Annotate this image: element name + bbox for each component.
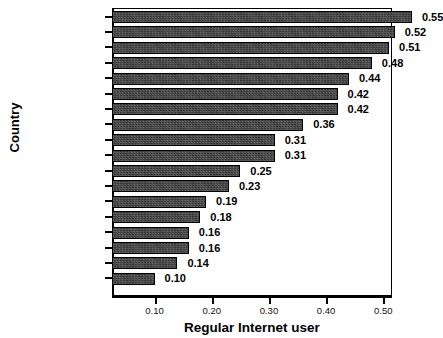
bar-value-label: 0.19 [216, 194, 237, 208]
bar-value-label: 0.42 [348, 87, 369, 101]
bar-value-label: 0.18 [210, 210, 231, 224]
y-axis-tick [105, 46, 112, 48]
bar [112, 42, 389, 54]
y-axis-tick [105, 123, 112, 125]
y-axis-tick [105, 247, 112, 249]
bar-value-label: 0.44 [359, 71, 380, 85]
bar [112, 88, 338, 100]
y-axis-tick [105, 77, 112, 79]
y-axis-tick [105, 170, 112, 172]
x-axis-tick-label: 0.20 [192, 305, 232, 316]
x-axis-tick [212, 298, 214, 304]
bar [112, 103, 338, 115]
bar-value-label: 0.51 [399, 40, 420, 54]
bar [112, 119, 303, 131]
bar-value-label: 0.48 [382, 56, 403, 70]
bar-value-label: 0.55 [422, 10, 443, 24]
y-axis-tick [105, 139, 112, 141]
bar [112, 227, 189, 239]
x-axis-tick-label: 0.30 [249, 305, 289, 316]
y-axis-tick [105, 200, 112, 202]
bar-value-label: 0.16 [199, 241, 220, 255]
y-axis-tick [105, 231, 112, 233]
y-axis-tick [105, 277, 112, 279]
x-axis-tick-label: 0.40 [306, 305, 346, 316]
bar [112, 11, 412, 23]
y-axis-tick [105, 31, 112, 33]
bar-value-label: 0.36 [313, 117, 334, 131]
x-axis-tick-label: 0.50 [363, 305, 403, 316]
bar-value-label: 0.14 [187, 256, 208, 270]
x-axis-tick [326, 298, 328, 304]
x-axis-title: Regular Internet user [112, 320, 392, 335]
y-axis-tick [105, 262, 112, 264]
bar [112, 211, 200, 223]
bar [112, 134, 275, 146]
x-axis-tick [155, 298, 157, 304]
bar-value-label: 0.23 [239, 179, 260, 193]
bar [112, 196, 206, 208]
y-axis-tick [105, 185, 112, 187]
y-axis-tick [105, 93, 112, 95]
x-axis-tick [383, 298, 385, 304]
x-axis-tick [269, 298, 271, 304]
bar-value-label: 0.10 [165, 271, 186, 285]
bar [112, 273, 155, 285]
bar-value-label: 0.16 [199, 225, 220, 239]
bar [112, 165, 240, 177]
y-axis-tick [105, 62, 112, 64]
bar [112, 257, 177, 269]
bar [112, 150, 275, 162]
x-axis-tick-label: 0.10 [135, 305, 175, 316]
bar-value-label: 0.42 [348, 102, 369, 116]
bar [112, 242, 189, 254]
bar-value-label: 0.25 [250, 164, 271, 178]
bar [112, 26, 395, 38]
bar-value-label: 0.52 [405, 25, 426, 39]
bar [112, 180, 229, 192]
y-axis-tick [105, 108, 112, 110]
bar [112, 73, 349, 85]
bar-value-label: 0.31 [285, 133, 306, 147]
y-axis-tick [105, 154, 112, 156]
y-axis-tick [105, 216, 112, 218]
y-axis-tick [105, 16, 112, 18]
bar-value-label: 0.31 [285, 148, 306, 162]
bar [112, 57, 372, 69]
